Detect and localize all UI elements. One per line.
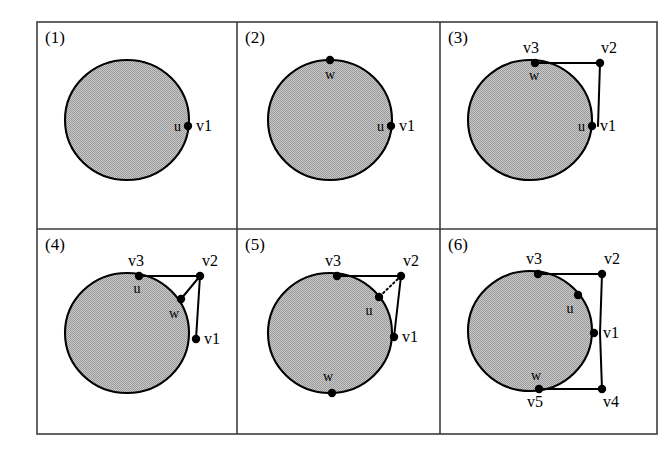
panel-1-label-v1: v1	[196, 117, 212, 134]
panel-3-v2-dot	[596, 59, 604, 67]
panel-5-edge-v2-v1	[394, 276, 401, 337]
panel-6-label-v3: v3	[526, 250, 542, 267]
panel-3-label-v1: v1	[600, 117, 616, 134]
panel-5-u-dot	[375, 293, 383, 301]
panel-1-label-u: u	[174, 119, 181, 134]
panel-4: v3uv2wv1(4)	[45, 235, 220, 393]
panel-3-label-v2: v2	[601, 39, 617, 56]
panel-6-v3-dot	[534, 270, 542, 278]
panel-4-number: (4)	[45, 235, 65, 254]
panel-6-v2-dot	[598, 270, 606, 278]
panel-4-v3-dot	[135, 272, 143, 280]
panel-4-v1-dot	[192, 335, 200, 343]
panel-5-label-v2: v2	[403, 252, 419, 269]
panel-2-number: (2)	[245, 28, 265, 47]
panel-3-label-w: w	[529, 68, 540, 83]
panel-4-edge-v2-w	[181, 276, 200, 299]
panel-3-label-u: u	[578, 119, 585, 134]
panel-1-disk	[65, 60, 189, 180]
panel-4-label-v3: v3	[128, 252, 144, 269]
panel-6-edge-v1-v4	[600, 333, 602, 389]
panel-4-label-u: u	[134, 281, 141, 296]
panel-6-number: (6)	[448, 235, 468, 254]
six-panel-figure: v1u(1)wv1u(2)v3wv2v1u(3)v3uv2wv1(4)v3v2u…	[0, 0, 672, 453]
panel-5-label-v3: v3	[325, 252, 341, 269]
panel-2-v1-dot	[387, 122, 395, 130]
panel-6-label-w: w	[531, 368, 542, 383]
panel-5-v1-dot	[390, 333, 398, 341]
panel-4-label-v2: v2	[202, 252, 218, 269]
panel-6-label-v5: v5	[527, 393, 543, 410]
figure-root: v1u(1)wv1u(2)v3wv2v1u(3)v3uv2wv1(4)v3v2u…	[0, 0, 672, 453]
panel-4-v2-dot	[196, 272, 204, 280]
panel-5-v3-dot	[333, 272, 341, 280]
panel-1-v1-dot	[184, 122, 192, 130]
panel-6-label-v4: v4	[603, 393, 619, 410]
panel-5-edge-v2-u-dotted	[379, 276, 401, 297]
panel-6-label-v1: v1	[603, 324, 619, 341]
panel-4-label-w: w	[169, 306, 180, 321]
panel-5: v3v2uv1w(5)	[245, 235, 419, 397]
panel-4-w-dot	[177, 295, 185, 303]
panel-4-disk	[65, 273, 189, 393]
panel-3-v1-dot	[588, 122, 596, 130]
panel-5-label-u: u	[366, 303, 373, 318]
panel-6-edge-v2-v1	[600, 274, 602, 333]
panel-2: wv1u(2)	[245, 28, 415, 180]
panel-1: v1u(1)	[45, 28, 212, 180]
panel-3-v3-dot	[531, 59, 539, 67]
panel-6-v5-dot	[535, 385, 543, 393]
panel-3-label-v3: v3	[523, 39, 539, 56]
panel-2-label-w: w	[325, 67, 336, 82]
panel-2-label-v1: v1	[399, 117, 415, 134]
panel-2-w-dot	[326, 56, 334, 64]
panel-6-u-dot	[574, 291, 582, 299]
panel-6-v1-dot	[590, 329, 598, 337]
panel-5-label-w: w	[323, 369, 334, 384]
panel-5-v2-dot	[397, 272, 405, 280]
panel-3-number: (3)	[448, 28, 468, 47]
panel-5-w-dot	[328, 389, 336, 397]
panel-2-label-u: u	[377, 119, 384, 134]
panel-4-label-v1: v1	[204, 330, 220, 347]
panel-6-label-u: u	[567, 301, 574, 316]
panel-4-edge-v2-v1	[196, 276, 200, 339]
panel-6: v3v2uv1wv5v4(6)	[448, 235, 620, 410]
panel-3: v3wv2v1u(3)	[448, 28, 617, 180]
panel-1-number: (1)	[45, 28, 65, 47]
panel-6-v4-dot	[598, 385, 606, 393]
panel-6-label-v2: v2	[604, 250, 620, 267]
panel-5-label-v1: v1	[402, 328, 418, 345]
panel-5-number: (5)	[245, 235, 265, 254]
